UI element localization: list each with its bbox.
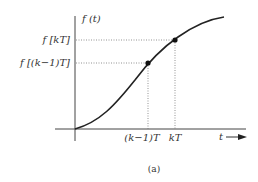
sample-point-k-minus-1 bbox=[145, 60, 150, 65]
x-tick-label-kT: kT bbox=[169, 132, 183, 143]
sample-point-k bbox=[172, 37, 177, 42]
y-tick-label-k1T: f [(k−1)T] bbox=[19, 57, 70, 68]
diagram-canvas: f (t) f [kT] f [(k−1)T] (k−1)T kT t (a) bbox=[0, 0, 258, 182]
function-curve bbox=[75, 17, 224, 129]
y-tick-label-kT: f [kT] bbox=[42, 34, 71, 45]
x-axis-label: t bbox=[219, 131, 224, 142]
t-arrow-head-icon bbox=[238, 134, 247, 140]
figure-caption: (a) bbox=[148, 164, 160, 174]
y-axis-label: f (t) bbox=[81, 13, 101, 24]
x-tick-label-k1T: (k−1)T bbox=[124, 132, 161, 143]
